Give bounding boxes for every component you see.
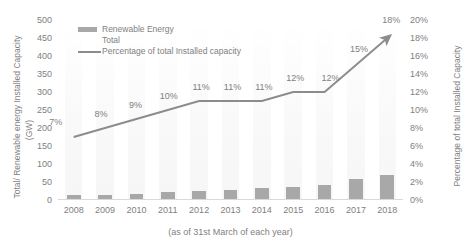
point-label-2011: 10%: [154, 91, 184, 101]
y-axis-right-tick: 8%: [410, 124, 440, 133]
y-axis-left-tick: 50: [26, 178, 52, 187]
x-axis-tick-2011: 2011: [151, 206, 185, 215]
legend-bar-swatch-icon: [78, 27, 97, 32]
x-axis-tick-2008: 2008: [57, 206, 91, 215]
y-axis-left-title: Total/ Renewable energy Installed Capaci…: [12, 12, 22, 222]
y-axis-right-tick: 14%: [410, 70, 440, 79]
y-axis-left-tick: 150: [26, 142, 52, 151]
y-axis-right-title: Percentage of total Installed Capacity: [452, 16, 462, 216]
x-axis-tick-2013: 2013: [214, 206, 248, 215]
y-axis-right-tick: 2%: [410, 178, 440, 187]
x-axis-tick-2016: 2016: [308, 206, 342, 215]
y-axis-left-tick: 0: [26, 196, 52, 205]
y-axis-left-tick: 250: [26, 106, 52, 115]
y-axis-right-tick: 16%: [410, 52, 440, 61]
y-axis-right-tick: 18%: [410, 34, 440, 43]
x-axis-tick-2015: 2015: [276, 206, 310, 215]
y-axis-left-tick: 100: [26, 160, 52, 169]
y-axis-right-tick: 4%: [410, 160, 440, 169]
y-axis-left-tick: 300: [26, 88, 52, 97]
x-axis-line: [58, 199, 403, 200]
point-label-2008: 7%: [41, 117, 71, 127]
y-axis-left-tick: 350: [26, 70, 52, 79]
y-axis-right-tick: 12%: [410, 88, 440, 97]
point-label-2015: 12%: [280, 73, 310, 83]
point-label-2009: 8%: [86, 109, 116, 119]
x-axis-tick-2010: 2010: [119, 206, 153, 215]
y-axis-left-tick: 450: [26, 34, 52, 43]
legend-label-line1: Renewable Energy: [102, 24, 174, 35]
y-axis-right-tick: 6%: [410, 142, 440, 151]
x-axis-tick-2014: 2014: [245, 206, 279, 215]
point-label-2016: 12%: [316, 73, 346, 83]
legend-line-swatch-icon: [78, 51, 101, 53]
legend-label-line2: Total: [102, 35, 120, 46]
y-axis-right-tick: 10%: [410, 106, 440, 115]
point-label-2017: 15%: [344, 44, 374, 54]
point-label-2014: 11%: [249, 82, 279, 92]
renewable-energy-chart: Total/ Renewable energy Installed Capaci…: [0, 0, 468, 248]
y-axis-right-tick: 0%: [410, 196, 440, 205]
point-label-2013: 11%: [218, 82, 248, 92]
x-axis-tick-2012: 2012: [182, 206, 216, 215]
y-axis-left-tick: 500: [26, 16, 52, 25]
point-label-2010: 9%: [120, 100, 150, 110]
y-axis-left-tick: 400: [26, 52, 52, 61]
legend-label-percentage: Percentage of total Installed capacity: [102, 46, 241, 57]
x-axis-caption: (as of 31st March of each year): [58, 227, 403, 237]
point-label-2012: 11%: [186, 82, 216, 92]
x-axis-tick-2009: 2009: [88, 206, 122, 215]
y-axis-right-tick: 20%: [410, 16, 440, 25]
x-axis-tick-2017: 2017: [339, 206, 373, 215]
x-axis-tick-2018: 2018: [370, 206, 404, 215]
point-label-2018: 18%: [376, 15, 406, 25]
